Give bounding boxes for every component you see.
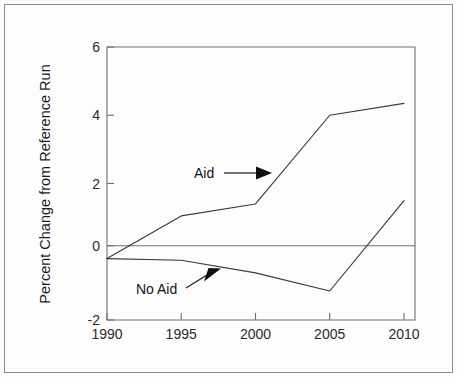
y-tick-label-2: 2 xyxy=(92,176,100,192)
y-tick-label-4: 4 xyxy=(92,107,100,123)
x-tick-labels: 1990 1995 2000 2005 2010 xyxy=(91,326,419,342)
annotation-aid: Aid xyxy=(194,165,272,181)
annotation-label-aid: Aid xyxy=(194,165,214,181)
annotation-arrow-head-aid xyxy=(256,167,272,180)
y-tick-label-0: 0 xyxy=(92,238,100,254)
axis-frame xyxy=(107,47,415,320)
series-line-aid xyxy=(107,103,404,258)
annotation-no-aid: No Aid xyxy=(136,268,221,297)
figure-container: 6 4 2 0 -2 1990 1995 2000 2005 2010 Perc… xyxy=(0,0,458,378)
y-tick-label-6: 6 xyxy=(92,39,100,55)
x-tick-label-1990: 1990 xyxy=(91,326,122,342)
annotation-arrow-shaft-no-aid xyxy=(186,275,207,288)
x-axis-ticks xyxy=(107,313,404,320)
x-tick-label-2005: 2005 xyxy=(314,326,345,342)
x-tick-label-2010: 2010 xyxy=(388,326,419,342)
y-tick-labels: 6 4 2 0 -2 xyxy=(88,39,101,328)
x-tick-label-2000: 2000 xyxy=(240,326,271,342)
y-axis-ticks xyxy=(107,47,114,320)
y-axis-title: Percent Change from Reference Run xyxy=(37,64,53,303)
line-chart: 6 4 2 0 -2 1990 1995 2000 2005 2010 Perc… xyxy=(0,0,458,378)
data-series-group xyxy=(107,103,404,291)
annotation-label-no-aid: No Aid xyxy=(136,281,177,297)
plot-axes xyxy=(107,47,415,320)
annotation-arrow-head-no-aid xyxy=(204,268,221,282)
x-tick-label-1995: 1995 xyxy=(166,326,197,342)
